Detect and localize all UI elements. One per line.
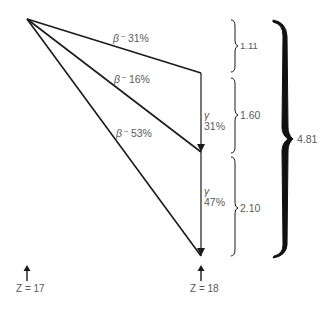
- beta-percent: 31%: [128, 32, 149, 44]
- beta-label-53: β⁻ 53%: [116, 128, 152, 139]
- energy-gap-3: 2.10: [240, 203, 260, 214]
- beta-symbol: β⁻: [113, 32, 125, 44]
- brace-2-10: [231, 157, 238, 256]
- arrow-up-icon: [24, 265, 31, 271]
- arrow-up-icon: [198, 265, 205, 271]
- beta-percent: 16%: [129, 73, 150, 85]
- beta-symbol: β⁻: [116, 127, 128, 139]
- gamma-percent: 47%: [204, 196, 225, 208]
- decay-scheme-drawing: [0, 0, 331, 312]
- gamma-label-47: γ 47%: [204, 186, 225, 208]
- energy-gap-2: 1.60: [240, 110, 260, 121]
- beta-symbol: β⁻: [114, 73, 126, 85]
- beta-label-16: β⁻ 16%: [114, 74, 150, 85]
- brace-1-60: [231, 78, 238, 153]
- total-energy: 4.81: [297, 134, 317, 145]
- brace-1-11: [231, 20, 238, 72]
- beta-label-31: β⁻ 31%: [113, 33, 149, 44]
- gamma-label-31: γ 31%: [204, 110, 225, 132]
- beta-line-31: [27, 19, 201, 73]
- brace-total: [273, 20, 293, 258]
- beta-line-53: [27, 19, 201, 256]
- gamma-percent: 31%: [204, 120, 225, 132]
- daughter-z-label: Z = 18: [190, 284, 219, 294]
- beta-percent: 53%: [131, 127, 152, 139]
- parent-z-label: Z = 17: [16, 284, 45, 294]
- energy-gap-1: 1.11: [240, 41, 258, 51]
